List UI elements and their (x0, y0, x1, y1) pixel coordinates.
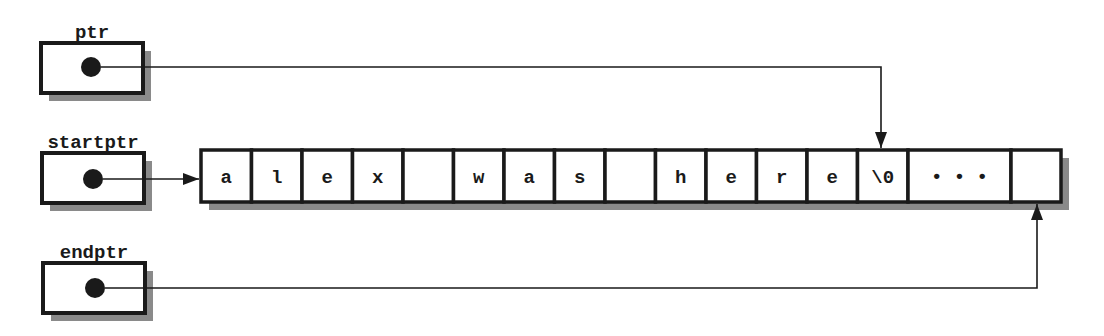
array-cell-char: r (776, 167, 787, 189)
array-cell: \0 (858, 150, 909, 202)
array-cell-char: s (574, 167, 585, 189)
array-cell: l (252, 150, 303, 202)
endptr-arrow (105, 204, 1043, 288)
array-cell-char: a (524, 167, 535, 189)
pointer-dot-icon (85, 278, 105, 298)
array-cell-char: h (675, 167, 686, 189)
array-cell-char: a (221, 167, 232, 189)
pointer-label: endptr (60, 242, 128, 264)
array-cell: h (656, 150, 707, 202)
array-cell-char: x (372, 167, 383, 189)
array-cell-box (605, 150, 656, 202)
array-cell-char: e (322, 167, 333, 189)
array-cell: e (807, 150, 858, 202)
array-cell-box (403, 150, 454, 202)
ptr-arrow (101, 67, 887, 148)
char-array: alexwashere\0• • • (201, 150, 1069, 210)
array-cell (1011, 150, 1061, 202)
endptr-connector-line (105, 204, 1037, 288)
pointer-array-diagram: ptrstartptrendptr alexwashere\0• • • (0, 0, 1104, 336)
array-cell: a (504, 150, 555, 202)
array-cell: • • • (908, 150, 1011, 202)
pointer-dot-icon (81, 57, 101, 77)
ptr-connector-line (101, 67, 881, 148)
pointer-endptr: endptr (43, 242, 153, 321)
array-cell: e (706, 150, 757, 202)
array-cell-char: \0 (871, 167, 894, 189)
array-cell-box (1011, 150, 1061, 202)
array-cell-char: e (827, 167, 838, 189)
pointer-label: ptr (75, 22, 109, 44)
array-cell (403, 150, 454, 202)
array-cell: e (302, 150, 353, 202)
array-cell-char: • • • (931, 167, 988, 189)
array-cell: r (757, 150, 808, 202)
array-cell: x (353, 150, 404, 202)
array-cell: s (555, 150, 606, 202)
array-cell-char: w (473, 167, 485, 189)
pointer-dot-icon (83, 169, 103, 189)
arrowhead-icon (875, 132, 887, 148)
arrowhead-icon (183, 173, 199, 185)
array-cell: a (201, 150, 252, 202)
pointer-label: startptr (47, 132, 138, 154)
pointer-ptr: ptr (41, 22, 151, 101)
array-cell-char: e (726, 167, 737, 189)
array-cell-char: l (271, 167, 282, 189)
array-cell: w (454, 150, 505, 202)
pointer-startptr: startptr (42, 132, 152, 211)
array-cell (605, 150, 656, 202)
